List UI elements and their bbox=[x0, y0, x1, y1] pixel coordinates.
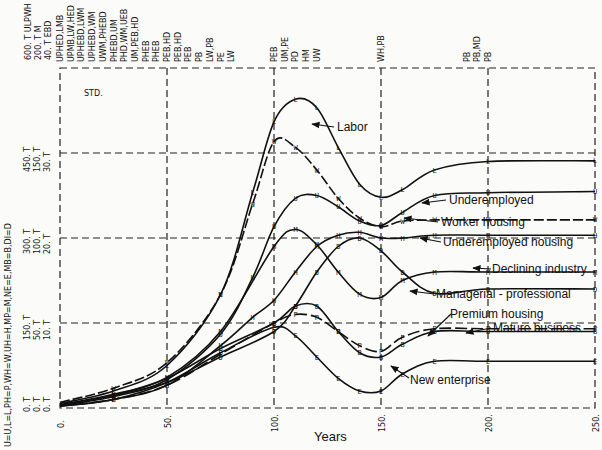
curve-marker: W bbox=[219, 291, 224, 299]
overlap-label: PE bbox=[217, 52, 226, 62]
label-premium-housing: Premium housing bbox=[450, 307, 543, 321]
y-tick-0-ebd: 0. T bbox=[43, 397, 52, 412]
x-tick-100: 100. bbox=[271, 414, 280, 432]
curve-marker: M bbox=[486, 269, 490, 277]
label-mature-business: Mature business bbox=[493, 321, 581, 335]
overlap-label: PEB,HD bbox=[163, 32, 172, 62]
overlap-label: WH,PB bbox=[377, 35, 386, 62]
y-tick-450-ebd: 30. T bbox=[43, 152, 52, 172]
label-declining-industry: Declining industry bbox=[492, 262, 587, 276]
y-tick-150-ulpwh: 150. T bbox=[23, 315, 32, 340]
overlap-label: LW bbox=[227, 50, 236, 62]
curve-marker: E bbox=[433, 358, 437, 366]
overlap-label: UM,PE bbox=[281, 37, 290, 62]
label-underemployed-housing: Underemployed housing bbox=[443, 235, 573, 249]
curve-marker: U bbox=[593, 188, 597, 196]
overlap-label: PHEB bbox=[142, 41, 151, 62]
y-tick-300-m: 100. T bbox=[33, 229, 42, 254]
curve-marker: U bbox=[400, 209, 404, 217]
overlap-label: UPHED,LMB bbox=[56, 15, 65, 62]
curve-marker: L bbox=[486, 158, 490, 166]
y-tick-150-m: 50. T bbox=[33, 320, 42, 340]
curve-marker: D bbox=[358, 235, 362, 243]
curve-marker: H bbox=[433, 232, 437, 240]
scale-header: 600. T ULPWH 200. T M 40. T EBD bbox=[24, 3, 53, 60]
y-tick-450-ulpwh: 450. T bbox=[23, 147, 32, 172]
x-tick-250: 250. bbox=[592, 414, 601, 432]
y-tick-300-ulpwh: 300. T bbox=[23, 229, 32, 254]
x-axis-title: Years bbox=[314, 429, 347, 444]
curve-marker: L bbox=[251, 189, 255, 197]
curve-marker: E bbox=[486, 358, 490, 366]
x-tick-150: 150. bbox=[378, 414, 387, 432]
overlap-label: PEB,HD bbox=[174, 32, 183, 62]
curve-marker: D bbox=[336, 243, 340, 251]
curve-marker: D bbox=[593, 286, 597, 294]
curves: LLLLLLLLLLLLLLUUUUUUUUUUUUUUWWWWWWWWWWWW… bbox=[60, 96, 598, 407]
scale-header-m: 200. T M bbox=[34, 25, 43, 60]
overlap-label: PB bbox=[195, 52, 204, 62]
curve-marker: M bbox=[358, 291, 362, 299]
overlap-label: HM bbox=[302, 49, 311, 62]
x-tick-0: 0. bbox=[57, 420, 66, 428]
curve-marker: L bbox=[379, 194, 383, 202]
curve-marker: E bbox=[315, 354, 319, 362]
curve-marker: H bbox=[272, 297, 276, 305]
curve-marker: H bbox=[336, 232, 340, 240]
curve-marker: L bbox=[272, 118, 276, 126]
curve-marker: L bbox=[593, 157, 597, 165]
label-managerial-professional: Managerial - professional bbox=[436, 287, 571, 301]
curve-marker: D bbox=[379, 247, 383, 255]
curve-marker: M bbox=[400, 277, 404, 285]
overlap-label: UWM,PHEBD bbox=[99, 11, 108, 62]
curve-marker: L bbox=[336, 144, 340, 152]
curve-marker: L bbox=[315, 104, 319, 112]
curve-marker: E bbox=[593, 358, 597, 366]
legend-key: U=U,L=L,PH=P,WH=W,UH=H,MP=M,NE=E,MB=B,DI… bbox=[4, 223, 13, 447]
curve-marker: M bbox=[219, 328, 223, 336]
y-ticks: 450. T 150. T 30. T 300. T 100. T 20. T … bbox=[23, 147, 52, 412]
std-label: STD. bbox=[84, 89, 103, 98]
curve-marker: L bbox=[400, 186, 404, 194]
curve-marker: M bbox=[336, 269, 340, 277]
overlap-label: UPHEBD,LWM bbox=[77, 7, 86, 62]
curve-marker: B bbox=[315, 303, 319, 311]
curve-marker: U bbox=[336, 203, 340, 211]
overlap-labels: UPHED,LMBUPMB,LW,HEDUPHEBD,LWMUPHEBD,WMU… bbox=[56, 5, 493, 62]
curve-marker: E bbox=[358, 388, 362, 396]
curve-marker: L bbox=[293, 96, 297, 104]
curve-marker: U bbox=[293, 195, 297, 203]
x-tick-200: 200. bbox=[485, 414, 494, 432]
overlap-label: PB bbox=[484, 52, 493, 62]
curve-marker: W bbox=[593, 216, 598, 224]
curve-marker: B bbox=[358, 349, 362, 357]
curve-marker: B bbox=[336, 328, 340, 336]
curve-marker: U bbox=[433, 192, 437, 200]
overlap-label: UM,PEB,HD bbox=[131, 17, 140, 62]
label-labor: Labor bbox=[337, 120, 368, 134]
curve-marker: B bbox=[593, 328, 597, 336]
curve-marker: E bbox=[165, 379, 169, 387]
curve-marker: H bbox=[593, 232, 597, 240]
curve-marker: D bbox=[400, 269, 404, 277]
overlap-label: UPMB,LW,HED bbox=[67, 5, 76, 62]
overlap-label: UW bbox=[313, 48, 322, 62]
curve-marker: M bbox=[379, 294, 383, 302]
y-tick-450-m: 150. T bbox=[33, 147, 42, 172]
curve-marker: P bbox=[293, 311, 297, 319]
overlap-label: PHEBD,UM bbox=[110, 19, 119, 62]
curve-marker: E bbox=[272, 324, 276, 332]
curve-marker: H bbox=[293, 269, 297, 277]
curve-marker: E bbox=[219, 349, 223, 357]
curve-marker: D bbox=[315, 269, 319, 277]
curve-marker: M bbox=[433, 269, 437, 277]
scale-header-ebd: 40. T EBD bbox=[44, 21, 53, 60]
curve-marker: M bbox=[293, 226, 297, 234]
curve-marker: E bbox=[293, 332, 297, 340]
label-worker-housing: Worker housing bbox=[441, 215, 525, 229]
y-tick-300-ebd: 20. T bbox=[43, 234, 52, 254]
overlap-label: PD bbox=[291, 51, 300, 62]
overlap-label: UPHEBD,WM bbox=[88, 11, 97, 62]
curve-marker: H bbox=[251, 314, 255, 322]
label-new-enterprise: New enterprise bbox=[410, 373, 491, 387]
